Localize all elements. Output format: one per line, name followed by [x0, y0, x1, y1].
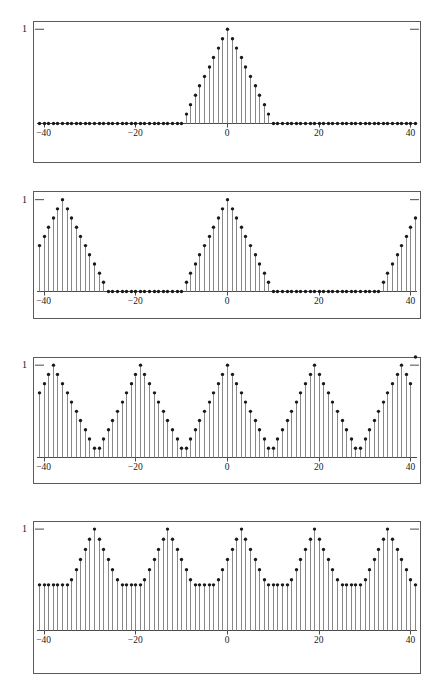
stem-marker — [189, 437, 192, 440]
stem-marker — [111, 568, 114, 571]
stem-marker — [162, 290, 165, 293]
stem-marker — [176, 548, 179, 551]
stem-marker — [322, 382, 325, 385]
stem-marker — [102, 122, 105, 125]
stem-marker — [157, 400, 160, 403]
stem-marker — [93, 527, 96, 530]
stem-marker — [295, 568, 298, 571]
stem-marker — [61, 122, 64, 125]
stem-marker — [295, 122, 298, 125]
stem-marker — [79, 558, 82, 561]
stem-marker — [345, 290, 348, 293]
stem-marker — [364, 578, 367, 581]
stem-marker — [162, 538, 165, 541]
stem-marker — [148, 290, 151, 293]
stem-marker — [396, 373, 399, 376]
stem-marker — [345, 583, 348, 586]
stem-marker — [286, 583, 289, 586]
stem-marker — [107, 428, 110, 431]
stem-marker — [290, 122, 293, 125]
stem-marker — [84, 122, 87, 125]
stem-marker — [125, 290, 128, 293]
stem-marker — [134, 373, 137, 376]
x-tick-label--40: −40 — [36, 635, 51, 645]
stem-marker — [350, 122, 353, 125]
stem-marker — [244, 400, 247, 403]
stem-marker — [322, 548, 325, 551]
stem-marker — [107, 290, 110, 293]
stem-marker — [327, 391, 330, 394]
stem-marker — [400, 244, 403, 247]
stem-marker — [38, 122, 41, 125]
stem-marker — [180, 122, 183, 125]
stem-marker — [157, 122, 160, 125]
stem-marker — [203, 410, 206, 413]
stem-marker — [185, 568, 188, 571]
stem-marker — [88, 253, 91, 256]
stem-marker — [189, 103, 192, 106]
stem-marker — [38, 391, 41, 394]
x-tick-label-0: 0 — [225, 462, 230, 472]
stem-marker — [304, 290, 307, 293]
stem-marker — [254, 419, 257, 422]
stem-marker — [157, 548, 160, 551]
stem-marker — [221, 373, 224, 376]
stem-marker — [121, 583, 124, 586]
stem-marker — [414, 122, 417, 125]
stem-marker — [336, 290, 339, 293]
stem-marker — [180, 290, 183, 293]
stem-marker — [354, 447, 357, 450]
stem-marker — [88, 122, 91, 125]
stem-marker — [341, 419, 344, 422]
x-tick-label--20: −20 — [128, 462, 143, 472]
stem-marker — [116, 122, 119, 125]
stem-marker — [111, 290, 114, 293]
stem-marker — [125, 122, 128, 125]
stem-marker — [240, 226, 243, 229]
stem-marker — [341, 290, 344, 293]
stem-marker — [84, 244, 87, 247]
stem-marker — [244, 538, 247, 541]
stem-marker — [198, 84, 201, 87]
stem-marker — [373, 558, 376, 561]
stem-marker — [318, 538, 321, 541]
stem-marker — [226, 558, 229, 561]
x-tick-label-20: 20 — [314, 462, 324, 472]
stem-marker — [153, 122, 156, 125]
stem-marker — [409, 122, 412, 125]
y-tick-label-1: 1 — [22, 360, 27, 370]
stem-marker — [331, 400, 334, 403]
x-tick-label-40: 40 — [406, 462, 416, 472]
stem-marker — [313, 290, 316, 293]
stem-marker — [359, 122, 362, 125]
stem-marker — [295, 400, 298, 403]
stem-marker — [263, 271, 266, 274]
stem-marker — [267, 112, 270, 115]
stem-marker — [66, 207, 69, 210]
stem-marker — [66, 391, 69, 394]
stem-marker — [139, 290, 142, 293]
stem-marker — [391, 382, 394, 385]
stem-marker — [313, 527, 316, 530]
stem-marker — [185, 112, 188, 115]
stem-marker — [102, 548, 105, 551]
stem-marker — [249, 548, 252, 551]
stem-marker — [70, 578, 73, 581]
stem-marker — [221, 37, 224, 40]
stem-marker — [212, 391, 215, 394]
stem-marker — [254, 84, 257, 87]
stem-marker — [38, 244, 41, 247]
stem-marker — [368, 428, 371, 431]
stem-marker — [56, 207, 59, 210]
stem-marker — [194, 428, 197, 431]
stem-marker — [143, 578, 146, 581]
stem-marker — [134, 122, 137, 125]
stem-marker — [249, 410, 252, 413]
stem-marker — [391, 262, 394, 265]
plot-area — [33, 521, 421, 674]
stem-marker — [368, 568, 371, 571]
stem-marker — [299, 122, 302, 125]
stem-marker — [208, 235, 211, 238]
stem-plot-panel-4: 1−40−2002040 — [33, 521, 421, 674]
stem-marker — [43, 382, 46, 385]
